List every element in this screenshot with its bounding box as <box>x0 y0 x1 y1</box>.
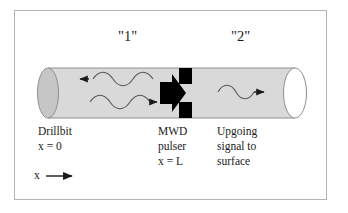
caption-pulser-line-3: x = L <box>158 154 187 169</box>
zone-label-2: "2" <box>231 28 250 45</box>
caption-drillbit-line-2: x = 0 <box>38 139 72 154</box>
caption-upgoing-line-2: signal to <box>217 139 257 154</box>
x-axis-label: x <box>34 169 40 183</box>
diagram-canvas <box>0 0 348 213</box>
caption-pulser-line-2: pulser <box>158 139 187 154</box>
caption-mwd-pulser: MWD pulser x = L <box>158 124 187 170</box>
pipe-right-endcap <box>284 68 307 118</box>
caption-upgoing-line-3: surface <box>217 154 257 169</box>
figure-root: "1" "2" Drillbit x = 0 MWD pulser x = L … <box>0 0 348 213</box>
pipe-left-endcap-drillbit <box>38 68 59 118</box>
caption-upgoing-signal: Upgoing signal to surface <box>217 124 257 170</box>
pulser-square-top <box>179 68 192 84</box>
caption-upgoing-line-1: Upgoing <box>217 124 257 139</box>
zone-label-1: "1" <box>118 28 137 45</box>
pulser-square-bottom <box>179 102 192 118</box>
caption-drillbit-line-1: Drillbit <box>38 124 72 139</box>
caption-drillbit: Drillbit x = 0 <box>38 124 72 154</box>
caption-pulser-line-1: MWD <box>158 124 187 139</box>
